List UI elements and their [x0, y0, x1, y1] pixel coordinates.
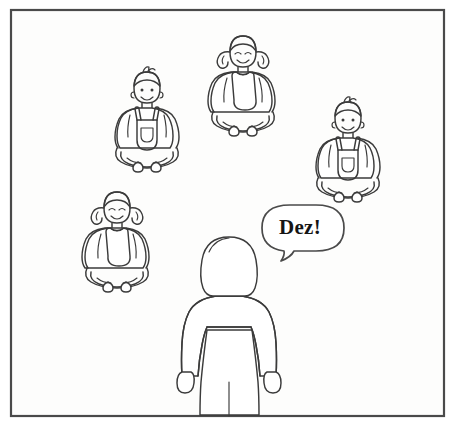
standing-figure-hand-right	[264, 372, 281, 393]
comic-panel-scene: Dez!	[0, 0, 455, 426]
standing-figure-head	[201, 237, 258, 296]
speech-bubble-text: Dez!	[279, 215, 321, 239]
standing-figure-hand-left	[177, 372, 194, 393]
